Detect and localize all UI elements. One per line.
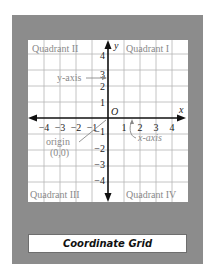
caption-title: Coordinate Grid [63, 238, 152, 249]
x-axis-callout-text: x-axis [137, 132, 162, 143]
quadrant-i-label: Quadrant I [126, 43, 169, 54]
y-tick: −3 [94, 159, 105, 170]
y-tick: 2 [100, 81, 105, 92]
y-tick: −4 [94, 175, 105, 186]
coordinate-grid: Quadrant II Quadrant I Quadrant III Quad… [28, 40, 188, 202]
y-axis [105, 40, 112, 202]
x-tick: −2 [71, 122, 82, 133]
x-axis [28, 115, 186, 122]
y-axis-callout-text: y-axis [57, 72, 82, 83]
origin-coords-text: (0,0) [50, 147, 69, 159]
y-axis-letter: y [113, 40, 119, 51]
x-axis-left-arrow-icon [28, 115, 37, 122]
x-tick: −4 [39, 122, 50, 133]
x-tick: 4 [170, 122, 175, 133]
y-tick: 4 [100, 50, 105, 61]
origin-callout-text: origin [46, 136, 70, 147]
y-tick: −2 [94, 143, 105, 154]
y-axis-up-arrow-icon [105, 40, 112, 49]
quadrant-iii-label: Quadrant III [30, 189, 80, 200]
coordinate-grid-panel: Quadrant II Quadrant I Quadrant III Quad… [28, 40, 188, 202]
origin-letter: O [111, 106, 118, 117]
quadrant-iv-label: Quadrant IV [126, 189, 177, 200]
x-tick: 1 [122, 122, 127, 133]
caption-box: Coordinate Grid [28, 234, 187, 253]
y-axis-down-arrow-icon [105, 193, 112, 202]
y-tick: 1 [100, 97, 105, 108]
x-tick: −3 [55, 122, 66, 133]
x-axis-letter: x [178, 104, 184, 115]
quadrant-ii-label: Quadrant II [32, 43, 78, 54]
x-axis-right-arrow-icon [177, 115, 186, 122]
